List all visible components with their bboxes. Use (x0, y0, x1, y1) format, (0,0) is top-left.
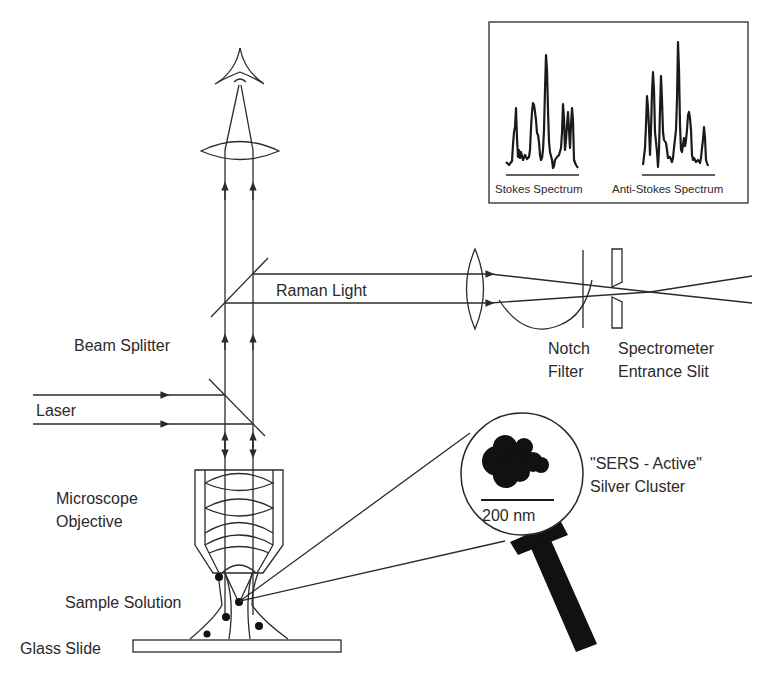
sample-solution-label: Sample Solution (65, 594, 182, 611)
beam-splitter-label: Beam Splitter (74, 337, 171, 354)
spectrometer-label-2: Entrance Slit (618, 363, 709, 380)
silver-particle (204, 631, 211, 638)
glass-slide-label: Glass Slide (20, 640, 101, 657)
microscope-objective-label-2: Objective (56, 513, 123, 530)
silver-particle (222, 613, 230, 621)
notch-filter-arc (499, 280, 592, 329)
ray-to-eye-left (225, 85, 239, 150)
sample-solution (190, 573, 288, 639)
eye-icon (215, 48, 264, 84)
stokes-spectrum-trace (506, 55, 578, 168)
sers-cluster-label-2: Silver Cluster (590, 478, 686, 495)
scale-bar-label: 200 nm (482, 507, 535, 524)
raman-light-label: Raman Light (276, 282, 367, 299)
sers-cluster-label-1: "SERS - Active" (590, 455, 702, 472)
eyepiece-lens (201, 142, 279, 160)
laser-label: Laser (36, 402, 77, 419)
silver-particle (255, 622, 263, 630)
stokes-spectrum-label: Stokes Spectrum (495, 183, 583, 195)
raman-mirror (211, 258, 268, 317)
glass-slide (133, 640, 341, 652)
microscope-objective (195, 470, 283, 573)
vertical-beams (225, 150, 253, 615)
focusing-lens (467, 249, 484, 329)
spectrum-inset: Stokes Spectrum Anti-Stokes Spectrum (489, 22, 748, 203)
notch-filter-label-1: Notch (548, 340, 590, 357)
magnifier-callout: 200 nm (240, 413, 597, 652)
microscope-objective-label-1: Microscope (56, 490, 138, 507)
anti-stokes-spectrum-trace (643, 42, 708, 167)
silver-particle (215, 573, 223, 581)
beam-splitter (209, 379, 265, 436)
ray-to-eye-right (241, 85, 253, 150)
spectrometer-label-1: Spectrometer (618, 340, 715, 357)
notch-filter-label-2: Filter (548, 363, 584, 380)
anti-stokes-spectrum-label: Anti-Stokes Spectrum (612, 183, 723, 195)
sers-setup-diagram: Raman Light Notch Filter Spectrometer En… (0, 0, 771, 682)
